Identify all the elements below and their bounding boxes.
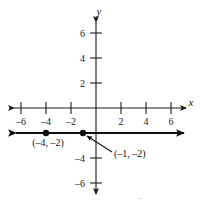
y-tick-label-6: 6 [80, 28, 85, 39]
y-tick-label-4: 4 [80, 53, 85, 64]
x-axis-tick-labels: –6 –4 –2 2 4 6 [15, 116, 174, 127]
x-tick-label-4: 4 [144, 116, 149, 127]
data-point-b-label: (–1, –2) [114, 148, 146, 160]
y-tick-label-2: 2 [80, 78, 85, 89]
coordinate-plane-figure: –6 –4 –2 2 4 6 x 6 4 2 [0, 0, 205, 201]
x-axis: –6 –4 –2 2 4 6 x [14, 96, 194, 127]
x-tick-label--6: –6 [15, 116, 26, 127]
x-tick-label--4: –4 [40, 116, 51, 127]
graph-canvas: –6 –4 –2 2 4 6 x 6 4 2 [0, 0, 205, 201]
y-axis: 6 4 2 –4 –6 y [74, 5, 102, 194]
data-point-a-label: (–4, –2) [32, 137, 64, 149]
x-tick-label-2: 2 [119, 116, 124, 127]
leader-line-point-b [87, 136, 112, 152]
data-point-a [43, 130, 49, 136]
x-tick-label--2: –2 [65, 116, 76, 127]
y-axis-label: y [96, 5, 102, 17]
y-tick-label--6: –6 [74, 178, 85, 189]
x-axis-label: x [188, 96, 194, 108]
x-tick-label-6: 6 [169, 116, 174, 127]
footer-fragment: – [137, 192, 143, 201]
data-point-b [80, 130, 86, 136]
y-tick-label--4: –4 [74, 153, 85, 164]
